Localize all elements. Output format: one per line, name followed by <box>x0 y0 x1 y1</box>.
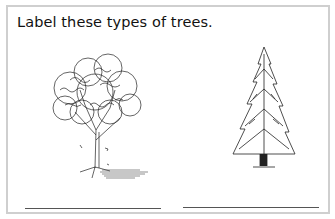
instruction-title: Label these types of trees. <box>17 14 213 30</box>
answer-line-2[interactable] <box>183 207 319 208</box>
evergreen-tree-icon <box>225 44 303 174</box>
answer-line-1[interactable] <box>25 208 161 209</box>
deciduous-tree-icon <box>40 50 150 185</box>
